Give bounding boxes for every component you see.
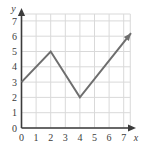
x-axis-label: x — [133, 132, 139, 143]
y-tick-label: 1 — [12, 107, 17, 118]
y-tick-label: 0 — [12, 123, 17, 134]
x-tick-label: 7 — [121, 132, 126, 143]
y-tick-label: 3 — [12, 77, 17, 88]
x-tick-label: 4 — [77, 132, 82, 143]
chart-container: 01234567 01234567 x y — [0, 0, 143, 145]
y-tick-label: 7 — [12, 16, 17, 27]
x-tick-label: 0 — [19, 132, 24, 143]
x-tick-label: 6 — [107, 132, 112, 143]
y-tick-label: 6 — [12, 31, 17, 42]
x-tick-label: 1 — [34, 132, 39, 143]
y-tick-label: 5 — [12, 46, 17, 57]
y-axis-label: y — [10, 3, 16, 14]
y-tick-label: 2 — [12, 92, 17, 103]
x-tick-label: 3 — [63, 132, 68, 143]
x-tick-label: 2 — [48, 132, 53, 143]
line-chart: 01234567 01234567 x y — [0, 0, 143, 145]
x-tick-label: 5 — [92, 132, 97, 143]
y-tick-label: 4 — [12, 61, 17, 72]
